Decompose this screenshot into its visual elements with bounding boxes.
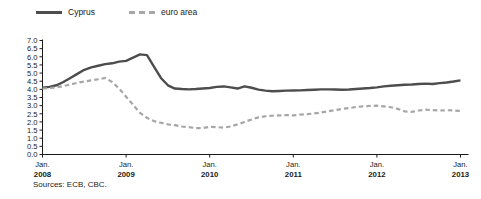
y-axis: 7.06.56.05.55.04.54.03.53.02.52.01.51.00…: [27, 36, 43, 159]
x-tick-month-label: Jan.: [453, 160, 467, 169]
source-note: Sources: ECB, CBC.: [33, 180, 107, 189]
chart-plot-area: 7.06.56.05.55.04.54.03.53.02.52.01.51.00…: [0, 0, 481, 199]
data-series-group: [43, 54, 461, 128]
x-tick-month-label: Jan.: [119, 160, 133, 169]
x-tick-month-label: Jan.: [35, 160, 49, 169]
x-tick-year-label: 2009: [117, 170, 135, 179]
x-tick-month-label: Jan.: [286, 160, 300, 169]
x-tick-year-label: 2008: [34, 170, 52, 179]
chart-figure: Cyprus euro area 7.06.56.05.55.04.54.03.…: [0, 0, 481, 199]
x-tick-month-label: Jan.: [370, 160, 384, 169]
x-tick-year-label: 2010: [201, 170, 219, 179]
x-axis: Jan.2008Jan.2009Jan.2010Jan.2011Jan.2012…: [34, 155, 470, 179]
series-line-cyprus: [43, 54, 461, 91]
x-tick-year-label: 2012: [368, 170, 386, 179]
y-tick-label: 0.0: [27, 150, 38, 159]
x-tick-year-label: 2013: [452, 170, 470, 179]
x-tick-year-label: 2011: [285, 170, 303, 179]
x-tick-month-label: Jan.: [203, 160, 217, 169]
